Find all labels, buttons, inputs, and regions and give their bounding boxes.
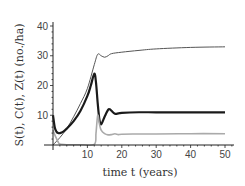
series-line-1 <box>53 74 225 134</box>
y-axis-label: S(t), C(t), Z(t) (no./ha) <box>13 23 26 146</box>
x-tick-label: 10 <box>82 149 94 160</box>
y-tick-label: 40 <box>37 21 49 32</box>
x-tick-label: 40 <box>185 149 197 160</box>
y-tick-label: 10 <box>37 110 49 121</box>
x-axis-label: time t (years) <box>102 166 177 179</box>
x-tick-label: 50 <box>219 149 231 160</box>
y-tick-label: 30 <box>37 50 49 61</box>
x-tick-label: 30 <box>151 149 163 160</box>
axes: 102030405010203040 <box>37 21 234 161</box>
plot-area <box>53 47 225 146</box>
series-line-2 <box>53 115 225 145</box>
series-line-0 <box>53 47 225 145</box>
chart: 102030405010203040 time t (years) S(t), … <box>0 0 245 186</box>
y-tick-label: 20 <box>37 80 49 91</box>
x-tick-label: 20 <box>116 149 128 160</box>
